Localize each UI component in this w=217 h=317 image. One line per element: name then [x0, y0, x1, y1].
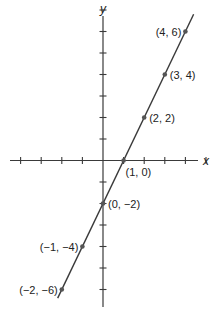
data-point [60, 287, 65, 292]
point-label: (−2, −6) [19, 284, 58, 296]
data-series [58, 14, 194, 298]
data-point [142, 115, 147, 120]
y-axis-label: y [99, 2, 107, 16]
point-label: (−1, −4) [40, 241, 79, 253]
data-point [183, 29, 188, 34]
point-label: (2, 2) [149, 112, 175, 124]
coordinate-plane: (4, 6)(3, 4)(2, 2)(1, 0)(0, −2)(−1, −4)(… [0, 0, 217, 317]
point-label: (4, 6) [156, 26, 182, 38]
plotted-line [58, 14, 194, 298]
x-axis-label: x [202, 154, 210, 168]
axes [10, 16, 198, 307]
point-label: (1, 0) [126, 166, 152, 178]
data-point [101, 201, 106, 206]
data-point [80, 244, 85, 249]
data-point [163, 72, 168, 77]
point-label: (0, −2) [108, 198, 140, 210]
point-label: (3, 4) [170, 69, 196, 81]
data-point [121, 158, 126, 163]
